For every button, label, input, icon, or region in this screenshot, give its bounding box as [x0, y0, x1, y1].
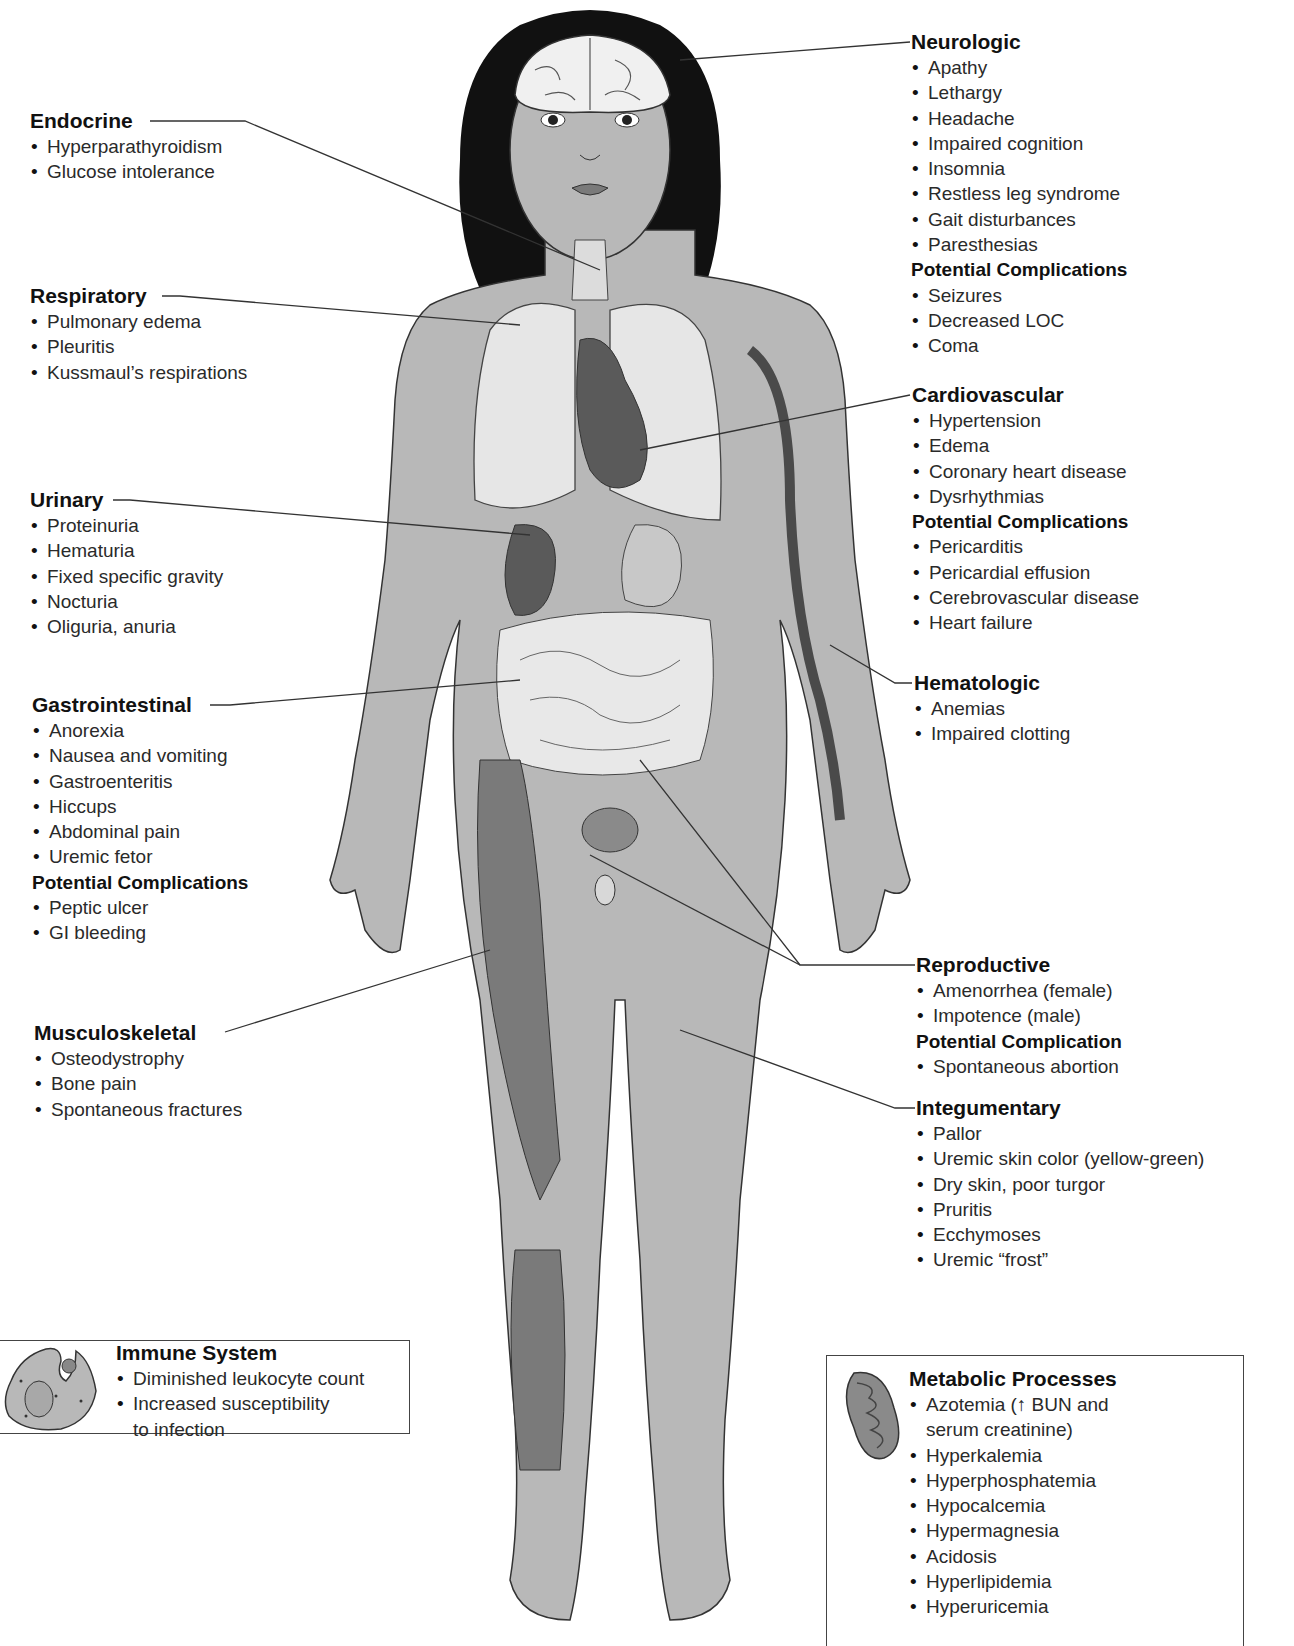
immune-text: Immune System Diminished leukocyte count…	[116, 1340, 364, 1442]
respiratory-item: Kussmaul’s respirations	[30, 360, 247, 385]
hematologic-item: Anemias	[914, 696, 1070, 721]
mitochondrion-icon	[839, 1368, 909, 1463]
label-neurologic: Neurologic Apathy Lethargy Headache Impa…	[911, 29, 1127, 359]
metabolic-item: Hyperuricemia	[909, 1594, 1117, 1619]
metabolic-item: Hypocalcemia	[909, 1493, 1117, 1518]
label-integumentary: Integumentary Pallor Uremic skin color (…	[916, 1095, 1204, 1273]
cardiovascular-complications-title: Potential Complications	[912, 509, 1139, 534]
reproductive-complication: Spontaneous abortion	[916, 1054, 1122, 1079]
neurologic-complication: Seizures	[911, 283, 1127, 308]
reproductive-item: Impotence (male)	[916, 1003, 1122, 1028]
cardiovascular-complication: Cerebrovascular disease	[912, 585, 1139, 610]
urinary-item: Proteinuria	[30, 513, 223, 538]
reproductive-item: Amenorrhea (female)	[916, 978, 1122, 1003]
neurologic-item: Lethargy	[911, 80, 1127, 105]
cardiovascular-complication: Pericardial effusion	[912, 560, 1139, 585]
integumentary-item: Uremic “frost”	[916, 1247, 1204, 1272]
metabolic-item: Hyperkalemia	[909, 1443, 1117, 1468]
gi-item: Anorexia	[32, 718, 248, 743]
intestines	[497, 612, 714, 775]
gi-complication: Peptic ulcer	[32, 895, 248, 920]
endocrine-title: Endocrine	[30, 108, 222, 134]
musculoskeletal-item: Spontaneous fractures	[34, 1097, 242, 1122]
neurologic-item: Gait disturbances	[911, 207, 1127, 232]
metabolic-processes-box: Metabolic Processes Azotemia (↑ BUN and …	[826, 1355, 1244, 1646]
neurologic-complications-title: Potential Complications	[911, 257, 1127, 282]
neurologic-item: Apathy	[911, 55, 1127, 80]
testis	[595, 875, 615, 905]
musculoskeletal-title: Musculoskeletal	[34, 1020, 242, 1046]
neurologic-complication: Decreased LOC	[911, 308, 1127, 333]
gi-complication: GI bleeding	[32, 920, 248, 945]
gi-complications-title: Potential Complications	[32, 870, 248, 895]
respiratory-item: Pleuritis	[30, 334, 247, 359]
gastrointestinal-title: Gastrointestinal	[32, 692, 248, 718]
neurologic-complication: Coma	[911, 333, 1127, 358]
urinary-item: Oliguria, anuria	[30, 614, 223, 639]
integumentary-item: Dry skin, poor turgor	[916, 1172, 1204, 1197]
immune-system-box: Immune System Diminished leukocyte count…	[0, 1340, 410, 1434]
integumentary-item: Pruritis	[916, 1197, 1204, 1222]
gi-item: Hiccups	[32, 794, 248, 819]
metabolic-item-continuation: serum creatinine)	[909, 1417, 1117, 1442]
neurologic-item: Headache	[911, 106, 1127, 131]
urinary-item: Hematuria	[30, 538, 223, 563]
metabolic-text: Metabolic Processes Azotemia (↑ BUN and …	[909, 1366, 1117, 1620]
urinary-title: Urinary	[30, 487, 223, 513]
integumentary-title: Integumentary	[916, 1095, 1204, 1121]
metabolic-item: Hyperphosphatemia	[909, 1468, 1117, 1493]
metabolic-item: Hypermagnesia	[909, 1518, 1117, 1543]
hematologic-title: Hematologic	[914, 670, 1070, 696]
musculoskeletal-item: Osteodystrophy	[34, 1046, 242, 1071]
metabolic-item: Hyperlipidemia	[909, 1569, 1117, 1594]
integumentary-item: Pallor	[916, 1121, 1204, 1146]
stomach	[622, 525, 682, 607]
endocrine-item: Hyperparathyroidism	[30, 134, 222, 159]
integumentary-item: Ecchymoses	[916, 1222, 1204, 1247]
cardiovascular-complication: Heart failure	[912, 610, 1139, 635]
metabolic-item: Acidosis	[909, 1544, 1117, 1569]
neurologic-item: Insomnia	[911, 156, 1127, 181]
label-hematologic: Hematologic Anemias Impaired clotting	[914, 670, 1070, 747]
hematologic-item: Impaired clotting	[914, 721, 1070, 746]
gi-item: Gastroenteritis	[32, 769, 248, 794]
cardiovascular-item: Coronary heart disease	[912, 459, 1139, 484]
label-respiratory: Respiratory Pulmonary edema Pleuritis Ku…	[30, 283, 247, 385]
endocrine-item: Glucose intolerance	[30, 159, 222, 184]
leukocyte-icon	[1, 1341, 101, 1431]
integumentary-item: Uremic skin color (yellow-green)	[916, 1146, 1204, 1171]
label-urinary: Urinary Proteinuria Hematuria Fixed spec…	[30, 487, 223, 639]
immune-item-continuation: to infection	[116, 1417, 364, 1442]
bladder	[582, 808, 638, 852]
label-endocrine: Endocrine Hyperparathyroidism Glucose in…	[30, 108, 222, 185]
label-cardiovascular: Cardiovascular Hypertension Edema Corona…	[912, 382, 1139, 636]
immune-item: Diminished leukocyte count	[116, 1366, 364, 1391]
urinary-item: Nocturia	[30, 589, 223, 614]
metabolic-item: Azotemia (↑ BUN and	[909, 1392, 1117, 1417]
cardiovascular-item: Edema	[912, 433, 1139, 458]
left-lung	[474, 303, 575, 508]
immune-item: Increased susceptibility	[116, 1391, 364, 1416]
metabolic-title: Metabolic Processes	[909, 1366, 1117, 1392]
immune-title: Immune System	[116, 1340, 364, 1366]
gi-item: Uremic fetor	[32, 844, 248, 869]
urinary-item: Fixed specific gravity	[30, 564, 223, 589]
reproductive-title: Reproductive	[916, 952, 1122, 978]
label-musculoskeletal: Musculoskeletal Osteodystrophy Bone pain…	[34, 1020, 242, 1122]
label-gastrointestinal: Gastrointestinal Anorexia Nausea and vom…	[32, 692, 248, 946]
neurologic-item: Impaired cognition	[911, 131, 1127, 156]
neurologic-item: Paresthesias	[911, 232, 1127, 257]
neurologic-item: Restless leg syndrome	[911, 181, 1127, 206]
gi-item: Abdominal pain	[32, 819, 248, 844]
reproductive-complication-title: Potential Complication	[916, 1029, 1122, 1054]
respiratory-title: Respiratory	[30, 283, 247, 309]
thyroid	[572, 240, 608, 300]
cardiovascular-item: Hypertension	[912, 408, 1139, 433]
cardiovascular-item: Dysrhythmias	[912, 484, 1139, 509]
respiratory-item: Pulmonary edema	[30, 309, 247, 334]
cardiovascular-title: Cardiovascular	[912, 382, 1139, 408]
gi-item: Nausea and vomiting	[32, 743, 248, 768]
label-reproductive: Reproductive Amenorrhea (female) Impoten…	[916, 952, 1122, 1079]
musculoskeletal-item: Bone pain	[34, 1071, 242, 1096]
cardiovascular-complication: Pericarditis	[912, 534, 1139, 559]
